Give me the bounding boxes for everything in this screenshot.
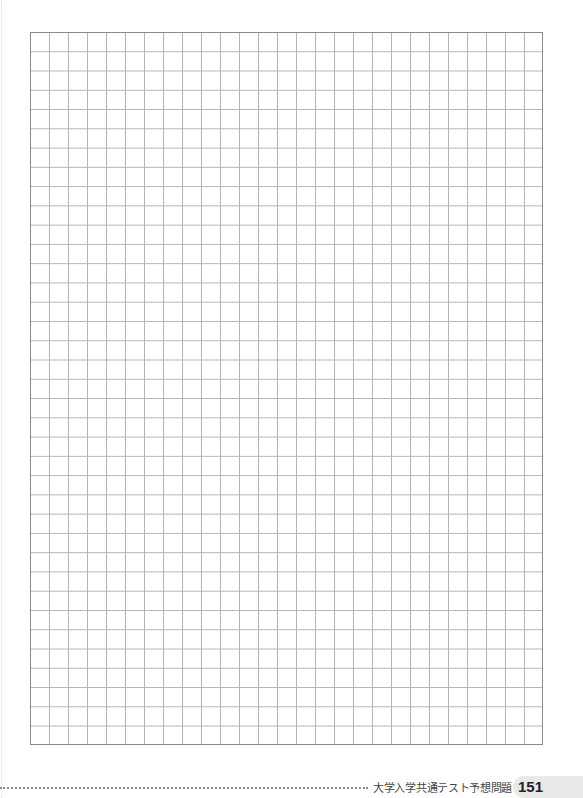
footer-leader-dots (0, 787, 368, 789)
graph-paper-grid (30, 32, 543, 745)
page-edge-dots (1, 0, 2, 798)
footer-book-title: 大学入学共通テスト予想問題 2 (373, 779, 522, 795)
page-footer: 大学入学共通テスト予想問題 2 151 (0, 776, 572, 798)
page-number: 151 (518, 778, 543, 795)
